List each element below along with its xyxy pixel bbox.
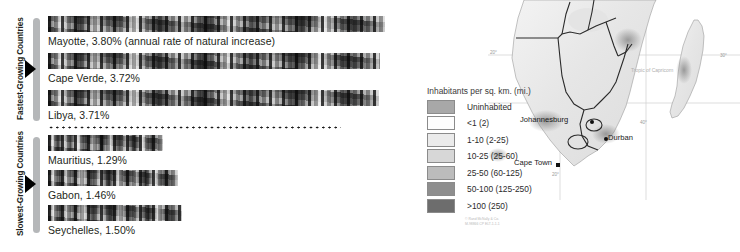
map-coord-southeast: 40° [640,120,647,125]
legend-swatch-10-25 [427,149,455,163]
bar-row-seychelles[interactable]: Seychelles, 1.50% [48,205,182,236]
bar-label-mayotte: Mayotte, 3.80% (annual rate of natural i… [48,35,385,47]
bar-cape-verde [48,53,380,69]
legend-row-uninhabited[interactable]: Uninhabited [427,99,602,114]
bar-label-gabon: Gabon, 1.46% [48,189,178,201]
legend-label-under-1: <1 (2) [467,118,489,128]
bar-row-mauritius[interactable]: Mauritius, 1.29% [48,135,163,166]
map-label-tropic-of-capricorn: Tropic of Capricorn [631,67,673,73]
fastest-group-pointer-icon [25,60,36,78]
bar-libya [48,90,379,106]
bar-mauritius [48,135,163,151]
legend-label-uninhabited: Uninhabited [467,102,512,112]
legend-swatch-over-100 [427,199,455,213]
bar-label-libya: Libya, 3.71% [48,109,379,121]
slowest-group-pointer-icon [25,175,36,193]
slowest-growing-group: Slowest-Growing Countries Mauritius, 1.2… [0,133,420,243]
legend-swatch-uninhabited [427,100,455,114]
map-coord-west: 20° [490,50,497,55]
bar-row-mayotte[interactable]: Mayotte, 3.80% (annual rate of natural i… [48,16,385,47]
slowest-growing-axis-label: Slowest-Growing Countries [16,222,25,236]
bar-mayotte [48,16,385,32]
map-label-durban: Durban [608,133,633,142]
bar-row-cape-verde[interactable]: Cape Verde, 3.72% [48,53,380,84]
legend-row-10-25[interactable]: 10-25 (25-60) [427,149,602,164]
legend-label-10-25: 10-25 (25-60) [467,151,518,161]
population-growth-chart-panel: Fastest-Growing Countries Mayotte, 3.80%… [0,0,420,252]
legend-label-25-50: 25-50 (60-125) [467,168,522,178]
bar-label-mauritius: Mauritius, 1.29% [48,154,163,166]
legend-swatch-50-100 [427,182,455,196]
legend-title: Inhabitants per sq. km. (mi.) [427,86,602,96]
legend-row-under-1[interactable]: <1 (2) [427,116,602,131]
bar-seychelles [48,205,182,221]
legend-row-25-50[interactable]: 25-50 (60-125) [427,165,602,180]
legend-swatch-under-1 [427,116,455,130]
legend-label-1-10: 1-10 (2-25) [467,135,508,145]
legend-row-1-10[interactable]: 1-10 (2-25) [427,132,602,147]
legend-swatch-1-10 [427,133,455,147]
legend-label-50-100: 50-100 (125-250) [467,184,532,194]
bar-gabon [48,170,178,186]
map-coord-east: 30° [720,53,727,58]
bar-label-seychelles: Seychelles, 1.50% [48,224,182,236]
fastest-growing-axis-label: Fastest-Growing Countries [16,106,25,120]
fastest-growing-group: Fastest-Growing Countries Mayotte, 3.80%… [0,8,420,125]
legend-swatch-25-50 [427,166,455,180]
map-legend: Inhabitants per sq. km. (mi.) Uninhabite… [427,86,602,226]
bar-label-cape-verde: Cape Verde, 3.72% [48,72,380,84]
legend-row-50-100[interactable]: 50-100 (125-250) [427,182,602,197]
legend-row-over-100[interactable]: >100 (250) [427,198,602,213]
legend-label-over-100: >100 (250) [467,201,508,211]
group-divider [48,126,341,129]
bar-row-libya[interactable]: Libya, 3.71% [48,90,379,121]
bar-row-gabon[interactable]: Gabon, 1.46% [48,170,178,201]
map-credit: © Rand McNally & Co. M-98866 CP ELT-1-1-… [465,217,602,226]
